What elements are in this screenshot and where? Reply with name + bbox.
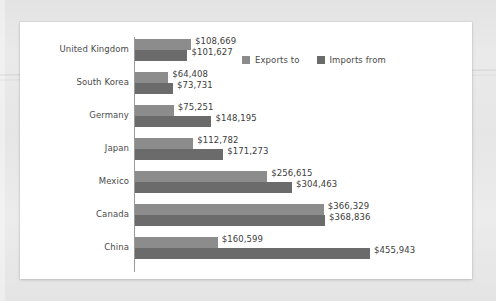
bar-exports[interactable] [135, 204, 324, 215]
row-bars: $75,251$148,195 [135, 104, 472, 132]
bar-imports[interactable] [135, 182, 292, 193]
bar-value-label: $148,195 [215, 113, 256, 123]
bar-exports[interactable] [135, 237, 218, 248]
category-label: United Kingdom [0, 44, 129, 54]
bar-imports[interactable] [135, 50, 187, 61]
bar-imports[interactable] [135, 248, 370, 259]
bar-value-label: $160,599 [222, 234, 263, 244]
row-bars: $256,615$304,463 [135, 170, 472, 198]
legend-label-exports: Exports to [255, 55, 300, 65]
bar-value-label: $455,943 [374, 245, 415, 255]
chart-row: Mexico$256,615$304,463 [20, 167, 472, 200]
bar-exports[interactable] [135, 72, 168, 83]
bar-value-label: $171,273 [227, 146, 268, 156]
category-label: China [0, 242, 129, 252]
category-label: Japan [0, 143, 129, 153]
bar-value-label: $73,731 [177, 80, 213, 90]
chart-row: South Korea$64,408$73,731 [20, 68, 472, 101]
chart-card: United Kingdom$108,669$101,627South Kore… [20, 22, 472, 279]
bar-exports[interactable] [135, 138, 193, 149]
imports-swatch-icon [317, 56, 325, 64]
category-label: Germany [0, 110, 129, 120]
row-bars: $160,599$455,943 [135, 236, 472, 264]
category-label: Canada [0, 209, 129, 219]
legend-label-imports: Imports from [330, 55, 386, 65]
row-bars: $112,782$171,273 [135, 137, 472, 165]
bar-exports[interactable] [135, 105, 174, 116]
bar-value-label: $101,627 [191, 47, 232, 57]
bar-value-label: $256,615 [271, 168, 312, 178]
bar-value-label: $368,836 [329, 212, 370, 222]
chart-row: Canada$366,329$368,836 [20, 200, 472, 233]
bar-chart: United Kingdom$108,669$101,627South Kore… [20, 22, 472, 279]
bar-value-label: $64,408 [172, 69, 208, 79]
legend-item-exports[interactable]: Exports to [242, 55, 300, 65]
chart-row: Germany$75,251$148,195 [20, 101, 472, 134]
bar-imports[interactable] [135, 83, 173, 94]
bar-value-label: $304,463 [296, 179, 337, 189]
category-label: South Korea [0, 77, 129, 87]
row-bars: $64,408$73,731 [135, 71, 472, 99]
bar-imports[interactable] [135, 215, 325, 226]
row-bars: $366,329$368,836 [135, 203, 472, 231]
bar-value-label: $366,329 [328, 201, 369, 211]
bar-exports[interactable] [135, 39, 191, 50]
category-label: Mexico [0, 176, 129, 186]
bar-imports[interactable] [135, 149, 223, 160]
bar-value-label: $112,782 [197, 135, 238, 145]
bar-value-label: $108,669 [195, 36, 236, 46]
bar-value-label: $75,251 [178, 102, 214, 112]
chart-legend: Exports to Imports from [242, 55, 386, 65]
legend-item-imports[interactable]: Imports from [317, 55, 386, 65]
bar-imports[interactable] [135, 116, 211, 127]
bar-exports[interactable] [135, 171, 267, 182]
chart-row: China$160,599$455,943 [20, 233, 472, 266]
exports-swatch-icon [242, 56, 250, 64]
chart-row: Japan$112,782$171,273 [20, 134, 472, 167]
